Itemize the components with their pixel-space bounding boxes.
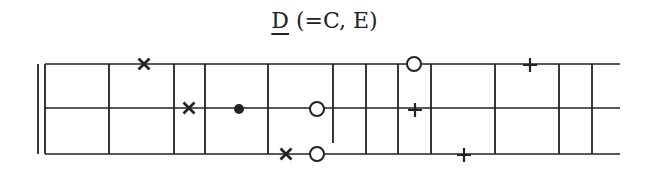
circle-marker-icon <box>310 102 324 116</box>
fretboard-diagram <box>0 0 649 176</box>
circle-marker-icon <box>310 147 324 161</box>
circle-marker-icon <box>407 57 421 71</box>
plus-marker-icon <box>408 103 422 117</box>
dot-marker-icon <box>234 104 244 114</box>
plus-marker-icon <box>457 148 471 162</box>
plus-marker-icon <box>523 58 537 72</box>
